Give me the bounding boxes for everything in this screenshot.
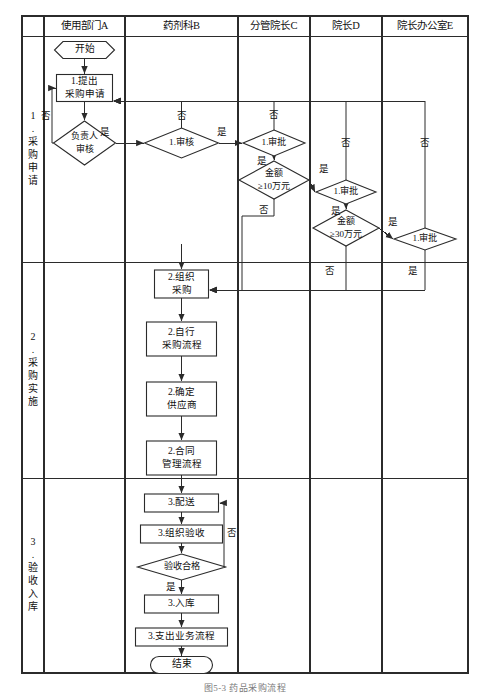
svg-text:验收合格: 验收合格 [164, 560, 200, 571]
edge-label-e10: 是 [331, 206, 341, 216]
svg-text:2.组织: 2.组织 [168, 271, 195, 282]
edge-label-e6: 是 [257, 156, 267, 166]
svg-text:1.审批: 1.审批 [334, 185, 359, 196]
edge-label-e3: 否 [177, 111, 187, 121]
edge-label-e14: 是 [408, 266, 418, 276]
svg-text:管理流程: 管理流程 [162, 458, 202, 469]
node-warehousing: 3.入库 [145, 595, 219, 613]
edge-label-e13: 否 [420, 138, 430, 148]
svg-text:1.审批: 1.审批 [413, 232, 438, 243]
svg-text:验: 验 [28, 561, 38, 573]
stage-label-s2: 2.采购实施 [28, 331, 38, 407]
svg-text:收: 收 [28, 574, 38, 586]
lane-header-C: 分管院长C [250, 19, 297, 31]
svg-text:实: 实 [28, 382, 38, 394]
svg-text:3.支出业务流程: 3.支出业务流程 [148, 630, 215, 641]
lane-header-A: 使用部门A [61, 19, 109, 31]
svg-text:审核: 审核 [76, 143, 94, 154]
stage-label-s3: 3.验收入库 [28, 536, 38, 612]
svg-text:负责人: 负责人 [71, 130, 98, 141]
node-amount-over-100k: 金额≥10万元 [239, 161, 309, 199]
swimlane-grid: 使用部门A药剂科B分管院长C院长D院长办公室E1.采购申请2.采购实施3.验收入… [22, 16, 468, 673]
svg-text:≥30万元: ≥30万元 [330, 229, 362, 239]
svg-text:金额: 金额 [337, 215, 355, 226]
lane-header-B: 药剂科B [163, 19, 200, 31]
flowchart-canvas: 使用部门A药剂科B分管院长C院长D院长办公室E1.采购申请2.采购实施3.验收入… [0, 0, 490, 693]
node-organize-purchase: 2.组织采购 [155, 270, 209, 298]
swimlane-flowchart: 使用部门A药剂科B分管院长C院长D院长办公室E1.采购申请2.采购实施3.验收入… [0, 0, 490, 693]
svg-text:1.审批: 1.审批 [262, 136, 287, 147]
svg-text:3.入库: 3.入库 [168, 597, 195, 608]
edge-label-e5: 否 [269, 110, 279, 120]
node-review-1: 1.审核 [145, 128, 219, 158]
svg-text:采: 采 [28, 357, 38, 368]
edge-label-e9: 否 [341, 138, 351, 148]
lane-header-E: 院长办公室E [397, 19, 453, 31]
node-organize-acceptance: 3.组织验收 [141, 525, 223, 543]
svg-text:1.提出: 1.提出 [71, 75, 98, 86]
stage-label-s1: 1.采购申请 [28, 110, 38, 186]
edge-label-e16: 是 [166, 582, 176, 592]
node-confirm-supplier: 2.确定供应商 [147, 382, 217, 416]
svg-text:购: 购 [28, 148, 38, 160]
node-approve-d: 1.审批 [316, 180, 376, 204]
svg-text:3: 3 [31, 536, 36, 547]
node-start: 开始 [55, 42, 115, 59]
svg-text:采购: 采购 [172, 284, 192, 295]
table-outer-border [22, 16, 468, 673]
svg-text:3.配送: 3.配送 [168, 496, 195, 507]
lane-header-D: 院长D [332, 19, 360, 31]
svg-text:.: . [32, 344, 35, 355]
edge-label-e11: 否 [325, 266, 335, 276]
svg-text:1: 1 [31, 110, 36, 121]
svg-text:开始: 开始 [75, 42, 95, 54]
svg-text:3.组织验收: 3.组织验收 [158, 527, 205, 538]
node-submit-purchase-request: 1.提出采购申请 [57, 75, 113, 102]
svg-text:申: 申 [28, 161, 38, 173]
svg-text:采购申请: 采购申请 [65, 88, 105, 99]
edge-label-e15: 否 [227, 528, 237, 538]
svg-text:施: 施 [28, 395, 38, 407]
svg-text:采: 采 [28, 136, 38, 147]
svg-text:采购流程: 采购流程 [162, 339, 202, 350]
edge-label-e7: 否 [259, 205, 269, 215]
svg-text:2.自行: 2.自行 [168, 326, 195, 337]
svg-text:.: . [32, 123, 35, 134]
svg-text:2: 2 [31, 331, 36, 342]
svg-text:入: 入 [28, 588, 38, 599]
svg-text:≥10万元: ≥10万元 [258, 181, 290, 191]
node-approve-c: 1.审批 [243, 130, 305, 156]
svg-text:.: . [32, 549, 35, 560]
edge-label-e8: 是 [319, 164, 329, 174]
svg-text:购: 购 [28, 369, 38, 381]
svg-text:供应商: 供应商 [167, 399, 197, 410]
edge-label-layer: 否是否是否是否是否是否是否是否是 [41, 110, 430, 592]
svg-text:2.确定: 2.确定 [168, 386, 195, 397]
svg-text:1.审核: 1.审核 [169, 136, 194, 147]
node-amount-over-300k: 金额≥30万元 [313, 210, 379, 246]
node-self-purchase-process: 2.自行采购流程 [147, 322, 217, 356]
svg-text:2.合同: 2.合同 [168, 445, 195, 456]
edge-label-e4: 是 [217, 127, 227, 137]
svg-text:结束: 结束 [172, 657, 192, 669]
edge-label-e2: 是 [100, 127, 110, 137]
node-approve-e: 1.审批 [394, 228, 456, 250]
node-expense-process: 3.支出业务流程 [136, 628, 228, 646]
node-delivery: 3.配送 [145, 494, 219, 512]
figure-caption: 图5-3 药品采购流程 [0, 681, 490, 693]
node-layer: 开始1.提出采购申请负责人审核1.审核1.审批金额≥10万元1.审批金额≥30万… [54, 42, 457, 674]
edge-label-e12: 是 [388, 217, 398, 227]
edge-label-e1: 否 [41, 111, 51, 121]
svg-text:金额: 金额 [265, 167, 283, 178]
node-acceptance-passed: 验收合格 [138, 554, 226, 580]
node-contract-process: 2.合同管理流程 [147, 441, 217, 475]
node-end: 结束 [151, 657, 213, 674]
svg-text:库: 库 [28, 600, 38, 612]
svg-text:请: 请 [28, 174, 38, 186]
